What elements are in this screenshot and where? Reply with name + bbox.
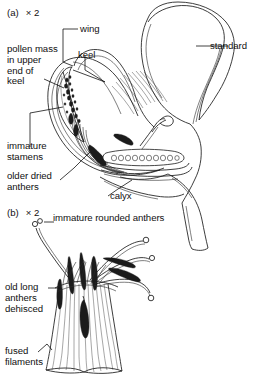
botanical-figure: (a)× 2 wing keel standard pollen mass in…: [0, 0, 257, 386]
panel-b-magnification: × 2: [26, 207, 40, 218]
label-old-long-anthers-line2: anthers: [5, 293, 37, 304]
wing-petal: [74, 49, 167, 127]
label-pollen-mass-line4: keel: [7, 76, 24, 87]
label-pollen-mass-line2: in upper: [7, 55, 41, 66]
calyx-and-receptacle: [100, 124, 208, 250]
label-immature-stamens-line1: immature: [7, 141, 47, 152]
label-old-long-anthers-line3: dehisced: [5, 304, 43, 315]
label-calyx: calyx: [110, 191, 132, 202]
panel-b-drawing: [32, 219, 154, 374]
label-old-long-anthers-line1: old long: [5, 282, 38, 293]
label-wing: wing: [80, 24, 100, 35]
label-keel: keel: [78, 50, 95, 61]
label-older-dried-anthers-line2: anthers: [7, 182, 39, 193]
label-fused-filaments-line1: fused: [5, 346, 28, 357]
label-immature-stamens-line2: stamens: [7, 152, 43, 163]
label-fused-filaments-line2: filaments: [5, 357, 43, 368]
panel-a-magnification: × 2: [26, 7, 40, 18]
label-pollen-mass-line1: pollen mass: [7, 44, 58, 55]
label-older-dried-anthers-line1: older dried: [7, 171, 52, 182]
pollen-mass: [57, 67, 84, 142]
label-standard: standard: [210, 41, 247, 52]
style-and-stigma: [140, 116, 173, 149]
panel-a-tag: (a)× 2: [7, 7, 39, 18]
standard-petal: [141, 2, 234, 124]
panel-a-tag-text: (a): [7, 7, 19, 18]
panel-b-tag-text: (b): [7, 207, 19, 218]
label-immature-rounded-anthers: immature rounded anthers: [53, 213, 164, 224]
ovary-with-ovules: [100, 149, 192, 180]
panel-b-tag: (b)× 2: [7, 207, 39, 218]
